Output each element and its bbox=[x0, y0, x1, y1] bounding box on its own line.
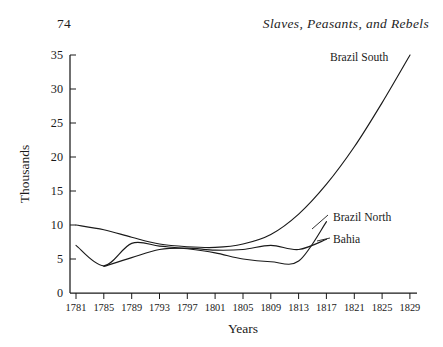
line-chart-figure: 35 30 25 20 15 10 5 0 Thousands bbox=[0, 38, 443, 347]
y-tick-label-15: 15 bbox=[51, 184, 63, 198]
y-axis-title: Thousands bbox=[17, 145, 32, 204]
y-axis-ticks bbox=[70, 55, 76, 259]
running-head: Slaves, Peasants, and Rebels bbox=[0, 16, 429, 32]
y-tick-label-0: 0 bbox=[57, 286, 63, 300]
x-tick-label-1793: 1793 bbox=[149, 302, 170, 313]
x-axis-tick-labels: 1781 1785 1789 1793 1797 1801 1805 1809 … bbox=[66, 302, 421, 313]
x-axis-title: Years bbox=[228, 321, 258, 336]
series-label-brazil-south: Brazil South bbox=[330, 51, 388, 64]
x-tick-label-1789: 1789 bbox=[121, 302, 142, 313]
x-tick-label-1785: 1785 bbox=[93, 302, 114, 313]
series-label-bahia: Bahia bbox=[333, 233, 360, 246]
series-label-brazil-north: Brazil North bbox=[333, 211, 391, 224]
x-tick-label-1809: 1809 bbox=[260, 302, 281, 313]
y-tick-label-25: 25 bbox=[51, 116, 63, 130]
x-tick-label-1781: 1781 bbox=[66, 302, 87, 313]
x-tick-label-1813: 1813 bbox=[288, 302, 309, 313]
series-line-brazil-north bbox=[76, 222, 327, 266]
y-tick-label-10: 10 bbox=[51, 218, 63, 232]
label-leaders bbox=[312, 215, 330, 241]
y-tick-label-35: 35 bbox=[51, 48, 63, 62]
x-tick-label-1829: 1829 bbox=[400, 302, 421, 313]
y-axis-tick-labels: 35 30 25 20 15 10 5 0 bbox=[51, 48, 63, 300]
x-tick-label-1801: 1801 bbox=[205, 302, 226, 313]
x-axis-ticks bbox=[76, 293, 410, 299]
series-labels: Brazil South Brazil North Bahia bbox=[330, 51, 391, 246]
y-tick-label-20: 20 bbox=[51, 150, 63, 164]
chart-axes bbox=[70, 55, 417, 293]
y-tick-label-30: 30 bbox=[51, 82, 63, 96]
x-tick-label-1825: 1825 bbox=[372, 302, 393, 313]
chart-canvas: 35 30 25 20 15 10 5 0 Thousands bbox=[0, 38, 443, 347]
y-tick-label-5: 5 bbox=[57, 252, 63, 266]
x-tick-label-1805: 1805 bbox=[233, 302, 254, 313]
x-tick-label-1821: 1821 bbox=[344, 302, 365, 313]
book-page: 74 Slaves, Peasants, and Rebels 35 bbox=[0, 0, 443, 347]
x-tick-label-1797: 1797 bbox=[177, 302, 198, 313]
x-tick-label-1817: 1817 bbox=[316, 302, 337, 313]
